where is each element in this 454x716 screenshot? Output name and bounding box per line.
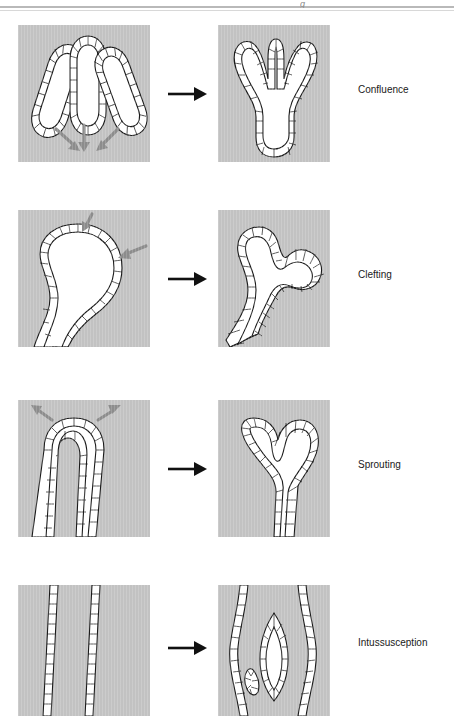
transition-arrow-confluence: [166, 81, 210, 107]
panel-confluence-after: [218, 25, 330, 162]
panel-sprouting-after: [218, 400, 330, 537]
panel-clefting-after: [218, 210, 330, 347]
row-label-sprouting: Sprouting: [358, 459, 401, 471]
panel-intussusception-after: [218, 585, 330, 716]
panel-confluence-before: [18, 25, 150, 162]
transition-arrow-intussusception: [166, 635, 210, 661]
panel-intussusception-before: [18, 585, 150, 716]
row-label-confluence: Confluence: [358, 84, 409, 96]
row-label-intussusception: Intussusception: [358, 637, 428, 649]
transition-arrow-sprouting: [166, 456, 210, 482]
panel-clefting-before: [18, 210, 150, 347]
figure-row-confluence: Confluence: [0, 25, 454, 210]
transition-arrow-clefting: [166, 266, 210, 292]
panel-sprouting-before: [18, 400, 150, 537]
figure-row-intussusception: Intussusception: [0, 585, 454, 716]
figure-row-sprouting: Sprouting: [0, 400, 454, 585]
figure-row-clefting: Clefting: [0, 210, 454, 395]
branching-morphogenesis-figure: Confluence: [0, 0, 454, 716]
row-label-clefting: Clefting: [358, 269, 392, 281]
